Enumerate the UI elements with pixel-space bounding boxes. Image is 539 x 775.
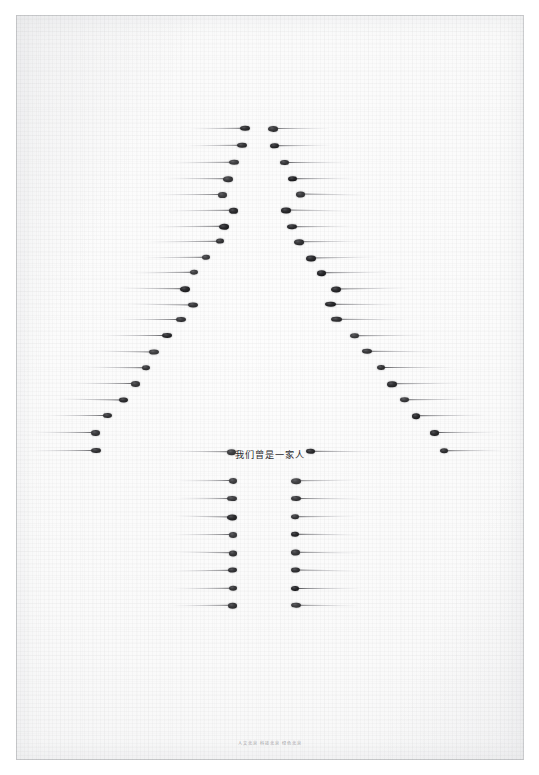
matchstick-shaft	[393, 382, 461, 384]
matchstick	[183, 142, 247, 148]
matchstick-head	[291, 514, 299, 519]
matchstick-head	[291, 531, 299, 536]
matchstick-shaft	[153, 225, 223, 227]
matchstick-shaft	[297, 587, 361, 589]
matchstick-head	[190, 269, 198, 274]
matchstick-head	[119, 397, 128, 402]
headline-text: 我们曾是一家人	[16, 447, 524, 461]
matchstick	[291, 477, 359, 482]
matchstick-tree-artwork	[16, 15, 524, 760]
matchstick-shaft	[331, 303, 399, 305]
matchstick-head	[331, 316, 342, 321]
matchstick-head	[240, 125, 250, 130]
matchstick-head	[229, 532, 237, 538]
matchstick-shaft	[169, 604, 231, 606]
matchstick-shaft	[169, 569, 231, 571]
matchstick-head	[430, 430, 439, 436]
matchstick-head	[91, 429, 100, 435]
matchstick-shaft	[356, 334, 426, 336]
matchstick-head	[287, 224, 297, 229]
matchstick-shaft	[116, 287, 184, 289]
matchstick	[100, 332, 172, 337]
matchstick	[268, 125, 330, 130]
matchstick-shaft	[89, 350, 153, 353]
matchstick-shaft	[323, 271, 389, 273]
matchstick-head	[317, 270, 326, 276]
matchstick-shaft	[100, 334, 166, 336]
matchstick	[144, 238, 224, 244]
matchstick-shaft	[56, 398, 122, 400]
matchstick-shaft	[126, 303, 192, 305]
matchstick	[89, 348, 159, 354]
matchstick-shaft	[171, 587, 231, 589]
matchstick-shaft	[312, 256, 378, 259]
matchstick-shaft	[163, 177, 227, 179]
matchstick-shaft	[383, 366, 454, 368]
matchstick-head	[291, 602, 301, 607]
matchstick	[175, 477, 237, 482]
matchstick-shaft	[297, 604, 359, 606]
matchstick-head	[325, 301, 336, 306]
matchstick	[153, 223, 229, 228]
matchstick-shaft	[188, 127, 244, 129]
matchstick-head	[229, 585, 237, 590]
matchstick	[291, 513, 357, 519]
matchstick-shaft	[368, 350, 436, 352]
poster-frame: 我们曾是一家人 人文北京 科技北京 绿色北京	[0, 0, 539, 775]
matchstick	[166, 207, 238, 212]
matchstick-head	[306, 255, 316, 261]
matchstick	[430, 429, 498, 434]
matchstick-head	[103, 413, 112, 418]
matchstick-head	[291, 478, 301, 484]
matchstick	[169, 159, 239, 165]
matchstick-head	[141, 365, 150, 370]
matchstick	[128, 269, 198, 275]
matchstick-shaft	[297, 479, 359, 481]
matchstick-shaft	[302, 193, 366, 195]
matchstick-head	[291, 549, 300, 555]
matchstick-shaft	[46, 414, 106, 416]
matchstick-head	[131, 381, 140, 387]
matchstick-head	[229, 477, 237, 483]
matchstick-head	[412, 413, 420, 419]
matchstick	[280, 159, 348, 164]
matchstick-shaft	[337, 287, 409, 290]
matchstick	[173, 549, 237, 555]
matchstick-head	[228, 567, 237, 572]
matchstick-head	[162, 332, 172, 337]
matchstick	[291, 567, 359, 573]
credit-line: 人文北京 科技北京 绿色北京	[16, 740, 524, 746]
matchstick-head	[180, 286, 190, 292]
matchstick-head	[237, 142, 247, 147]
matchstick-head	[331, 286, 341, 292]
matchstick	[291, 602, 359, 608]
matchstick-head	[270, 143, 279, 148]
matchstick	[171, 531, 237, 536]
matchstick-shaft	[154, 193, 221, 195]
matchstick	[317, 269, 389, 274]
matchstick-shaft	[297, 533, 359, 535]
matchstick-shaft	[171, 533, 231, 535]
matchstick	[30, 429, 100, 434]
matchstick-shaft	[114, 318, 180, 320]
matchstick	[188, 125, 250, 131]
matchstick-shaft	[418, 414, 486, 416]
matchstick	[291, 585, 361, 590]
matchstick	[163, 175, 233, 181]
matchstick	[56, 396, 128, 402]
matchstick	[331, 316, 407, 321]
matchstick-shaft	[286, 161, 348, 163]
matchstick-head	[294, 239, 304, 245]
matchstick-shaft	[144, 240, 218, 242]
matchstick	[296, 191, 366, 197]
matchstick-head	[387, 381, 397, 387]
matchstick-head	[291, 586, 299, 591]
matchstick	[116, 285, 190, 290]
matchstick-shaft	[166, 209, 232, 211]
matchstick	[169, 602, 237, 608]
matchstick-head	[227, 496, 237, 501]
matchstick-head	[229, 159, 239, 164]
matchstick-head	[202, 254, 210, 259]
matchstick	[325, 301, 399, 307]
matchstick	[362, 348, 436, 354]
